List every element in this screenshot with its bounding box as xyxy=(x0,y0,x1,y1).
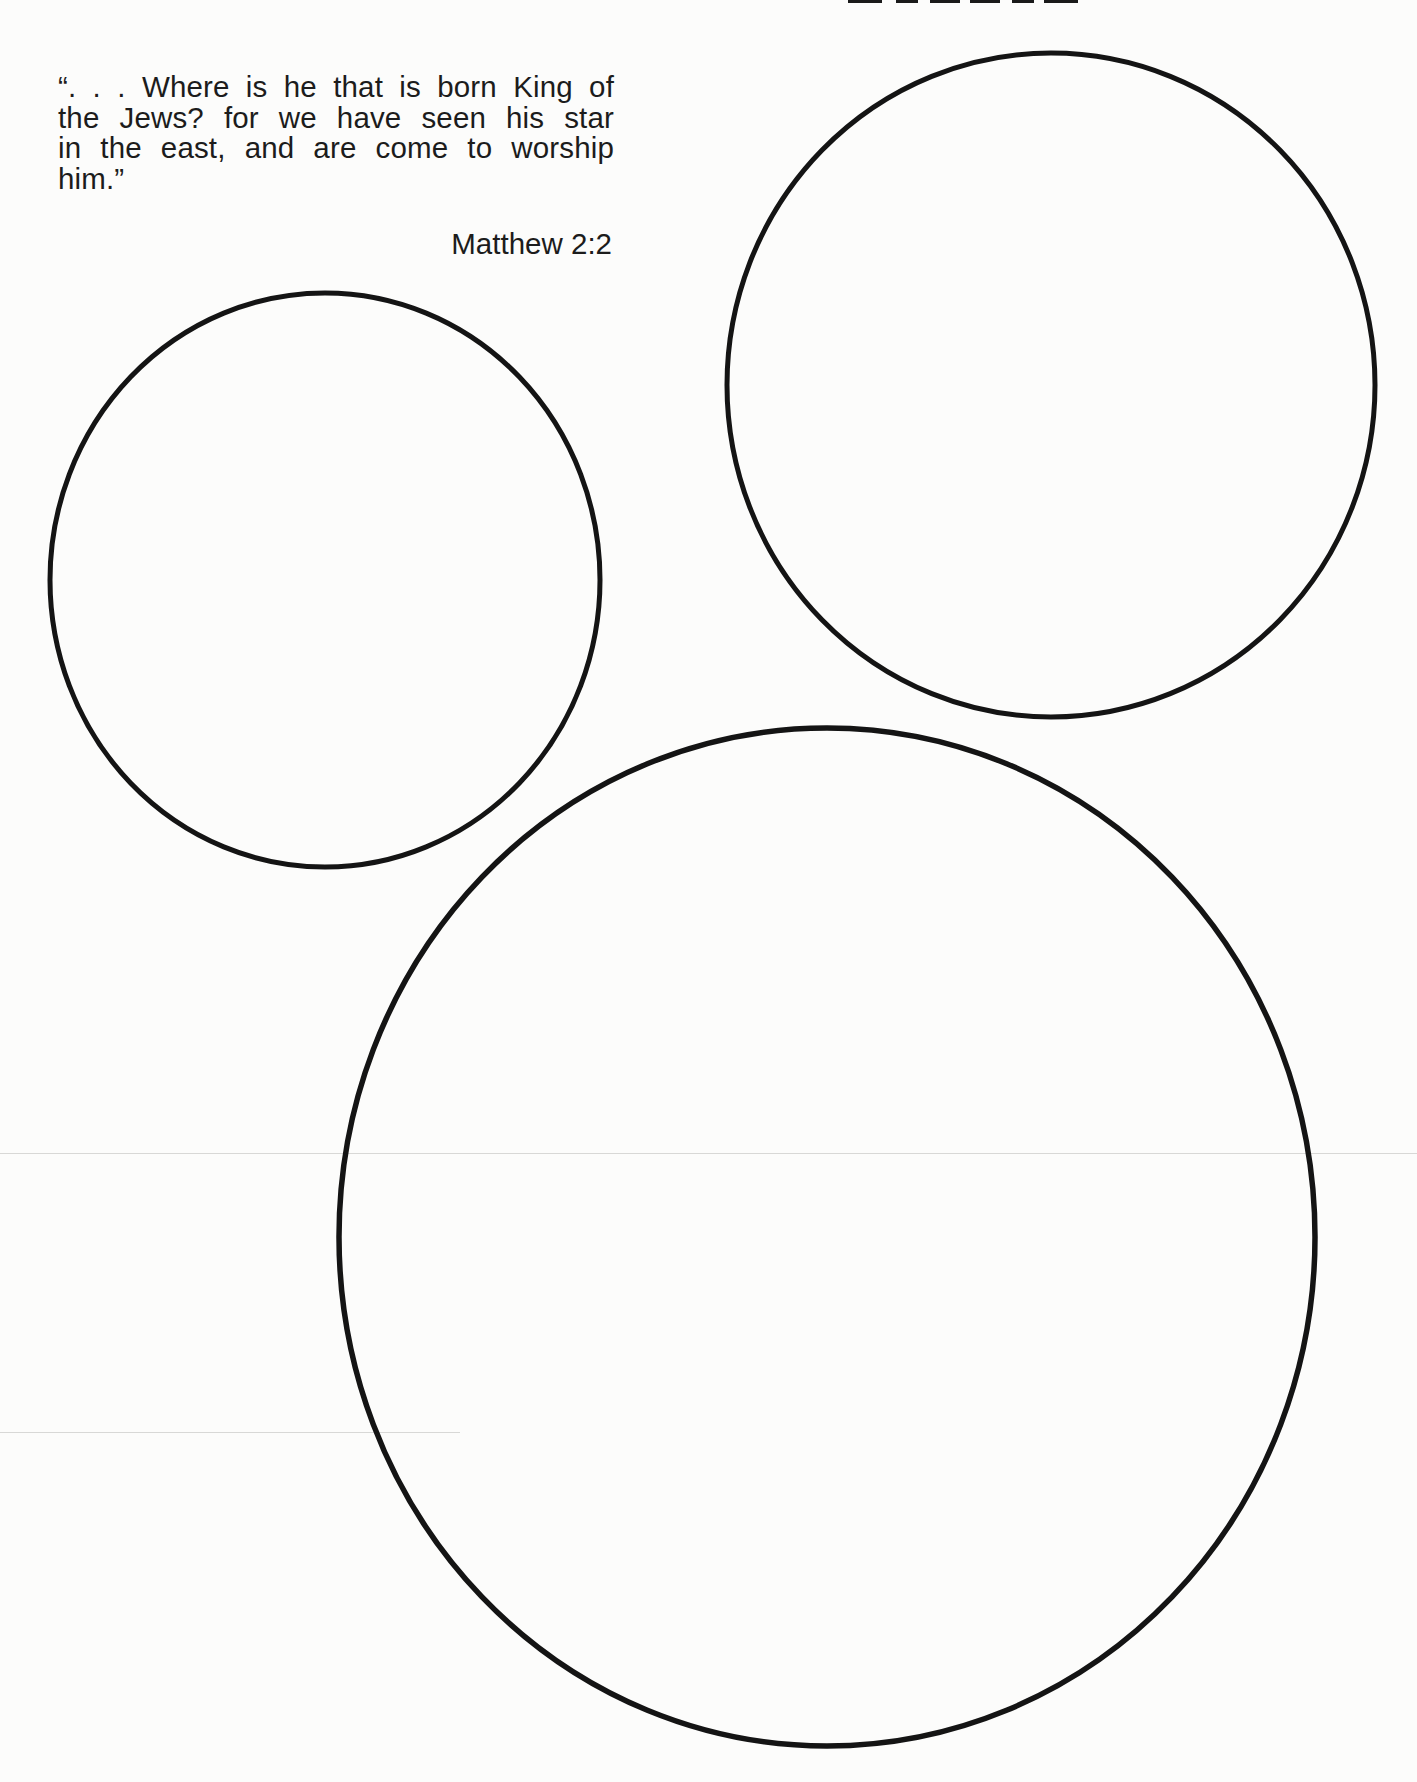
small-circle-left xyxy=(50,293,600,867)
large-circle-bottom xyxy=(339,728,1315,1746)
worksheet-page: “. . . Where is he that is born King of … xyxy=(0,0,1417,1782)
medium-circle-top-right xyxy=(727,53,1375,717)
circle-outlines xyxy=(0,0,1417,1782)
